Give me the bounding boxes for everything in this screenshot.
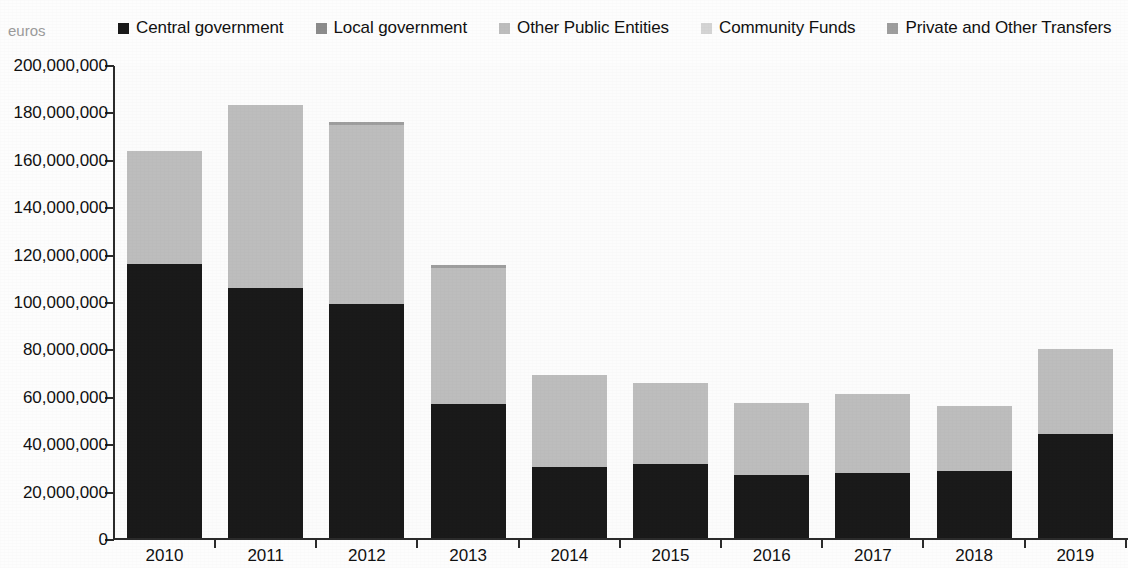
legend-swatch-icon [316, 23, 327, 34]
bar-stack[interactable] [835, 64, 910, 538]
bar-segment[interactable] [532, 375, 607, 466]
y-axis-tick-label: 40,000,000 [0, 435, 108, 455]
bar-segment[interactable] [127, 151, 202, 264]
bar-segment[interactable] [228, 105, 303, 288]
x-axis-tick-label: 2018 [955, 546, 993, 566]
x-axis-tick-label: 2011 [247, 546, 284, 566]
y-axis-tick-label: 80,000,000 [0, 340, 108, 360]
legend-item[interactable]: Community Funds [701, 18, 855, 38]
x-axis-line [113, 538, 1128, 540]
x-axis-tick [619, 539, 621, 548]
bar-segment[interactable] [127, 264, 202, 538]
bar-segment[interactable] [937, 471, 1012, 538]
y-axis-tick-label: 120,000,000 [0, 246, 108, 266]
x-axis-tick-label: 2012 [348, 546, 386, 566]
legend-item[interactable]: Private and Other Transfers [887, 18, 1111, 38]
x-axis-tick [720, 539, 722, 548]
bar-stack[interactable] [127, 64, 202, 538]
y-axis-tick-label: 0 [0, 530, 108, 550]
legend-item-label: Local government [334, 18, 468, 38]
bar-segment[interactable] [633, 383, 708, 465]
legend-item-label: Central government [136, 18, 284, 38]
bar-stack[interactable] [228, 64, 303, 538]
y-axis-tick-label: 20,000,000 [0, 483, 108, 503]
legend-item[interactable]: Local government [316, 18, 468, 38]
bar-segment[interactable] [1038, 349, 1113, 433]
legend-swatch-icon [701, 23, 712, 34]
x-axis-tick [1125, 539, 1127, 548]
bar-stack[interactable] [431, 64, 506, 538]
plot-area: 200,000,000180,000,000160,000,000140,000… [113, 64, 1128, 540]
y-axis-tick-label: 160,000,000 [0, 151, 108, 171]
bar-segment[interactable] [228, 288, 303, 538]
x-axis-tick-label: 2014 [550, 546, 588, 566]
bar-stack[interactable] [937, 64, 1012, 538]
chart-legend: Central governmentLocal governmentOther … [118, 16, 1123, 40]
bar-segment[interactable] [329, 122, 404, 125]
x-axis-tick [315, 539, 317, 548]
bar-segment[interactable] [937, 406, 1012, 470]
y-axis-tick-label: 180,000,000 [0, 103, 108, 123]
y-axis-tick-label: 200,000,000 [0, 56, 108, 76]
x-axis-tick [922, 539, 924, 548]
bar-segment[interactable] [431, 404, 506, 538]
bar-segment[interactable] [431, 268, 506, 404]
bar-stack[interactable] [329, 64, 404, 538]
x-axis-tick-label: 2017 [854, 546, 892, 566]
legend-swatch-icon [499, 23, 510, 34]
x-axis-tick [1024, 539, 1026, 548]
x-axis-tick [416, 539, 418, 548]
bar-segment[interactable] [734, 475, 809, 538]
x-axis-tick-label: 2016 [753, 546, 791, 566]
legend-swatch-icon [118, 23, 129, 34]
legend-swatch-icon [887, 23, 898, 34]
bar-segment[interactable] [431, 265, 506, 268]
bar-segment[interactable] [1038, 434, 1113, 538]
bar-stack[interactable] [1038, 64, 1113, 538]
y-axis-line [113, 66, 115, 540]
y-axis-tick-label: 60,000,000 [0, 388, 108, 408]
x-axis-tick [821, 539, 823, 548]
bar-segment[interactable] [532, 467, 607, 538]
bar-segment[interactable] [329, 125, 404, 304]
bar-stack[interactable] [633, 64, 708, 538]
y-axis-tick-label: 140,000,000 [0, 198, 108, 218]
bar-segment[interactable] [835, 394, 910, 473]
x-axis-tick-label: 2010 [146, 546, 184, 566]
legend-item[interactable]: Other Public Entities [499, 18, 669, 38]
y-axis-unit-caption: euros [8, 22, 46, 39]
bar-segment[interactable] [734, 403, 809, 475]
legend-item-label: Community Funds [719, 18, 855, 38]
y-axis-tick-label: 100,000,000 [0, 293, 108, 313]
bar-segment[interactable] [329, 304, 404, 538]
x-axis-tick [214, 539, 216, 548]
x-axis-tick [518, 539, 520, 548]
chart-screenshot: euros Central governmentLocal government… [0, 0, 1128, 568]
legend-item[interactable]: Central government [118, 18, 284, 38]
x-axis-tick-label: 2019 [1056, 546, 1094, 566]
bar-stack[interactable] [734, 64, 809, 538]
x-axis-tick-label: 2015 [652, 546, 690, 566]
bar-segment[interactable] [835, 473, 910, 538]
legend-item-label: Other Public Entities [517, 18, 669, 38]
x-axis-tick-label: 2013 [449, 546, 487, 566]
bar-segment[interactable] [633, 464, 708, 538]
legend-item-label: Private and Other Transfers [905, 18, 1111, 38]
bar-stack[interactable] [532, 64, 607, 538]
